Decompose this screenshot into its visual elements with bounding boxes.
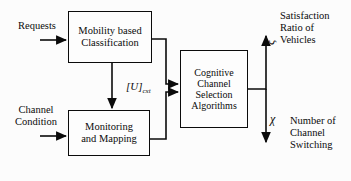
block-mobility-line1: Mobility based [78,25,141,37]
input-condition-line1: Channel [2,104,70,116]
block-monitoring-line2: and Mapping [81,133,137,145]
edge-label-utility-base: [U] [126,80,143,92]
output-switching-line3: Switching [290,139,350,151]
block-monitoring-line1: Monitoring [85,121,133,133]
block-mobility-line2: Classification [81,37,139,49]
symbol-xi: ξ [263,40,278,45]
input-label-channel-condition: Channel Condition [2,104,70,128]
output-satisfaction-line2: Ratio of [280,22,350,34]
input-condition-line2: Condition [2,116,70,128]
edge-label-utility-matrix: [U]cxt [126,80,151,95]
block-cognitive-line2: Channel [197,78,230,89]
wire-monitoring-to-cognitive [150,92,178,139]
symbol-chi: χ [270,112,275,127]
wire-mobility-to-cognitive [152,39,178,84]
output-label-satisfaction-ratio-of-vehicles: Satisfaction Ratio of Vehicles [280,10,350,46]
block-cognitive-line3: Selection [195,89,232,100]
output-satisfaction-line3: Vehicles [280,34,350,46]
edge-label-utility-subscript: cxt [143,87,151,95]
block-monitoring-and-mapping: Monitoring and Mapping [68,110,150,156]
output-switching-line2: Channel [290,127,350,139]
input-requests-line1: Requests [6,20,68,32]
block-cognitive-channel-selection-algorithms: Cognitive Channel Selection Algorithms [180,50,248,128]
output-satisfaction-line1: Satisfaction [280,10,350,22]
block-mobility-based-classification: Mobility based Classification [68,11,152,63]
output-switching-line1: Number of [290,115,350,127]
block-diagram: Mobility based Classification Monitoring… [0,0,351,181]
input-label-requests: Requests [6,20,68,32]
block-cognitive-line1: Cognitive [194,67,233,78]
output-label-number-of-channel-switching: Number of Channel Switching [290,115,350,151]
block-cognitive-line4: Algorithms [191,100,237,111]
